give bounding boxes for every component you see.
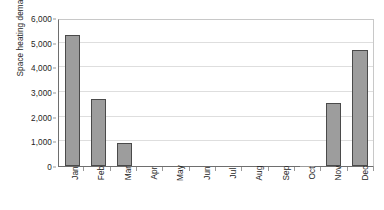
y-tick-label: 4,000 bbox=[31, 64, 52, 73]
x-tick-label-cell: Sep bbox=[269, 171, 295, 210]
bar-slot bbox=[347, 20, 373, 166]
x-tick-label-cell: Aug bbox=[242, 171, 268, 210]
bar-slot bbox=[216, 20, 242, 166]
plot-area bbox=[58, 19, 374, 167]
x-tick-label: Apr bbox=[150, 166, 159, 179]
x-tick-label: May bbox=[176, 165, 185, 181]
y-axis-tick-labels: 01,0002,0003,0004,0005,0006,000 bbox=[14, 0, 56, 210]
x-tick-label-cell: Nov bbox=[321, 171, 347, 210]
y-tick-mark bbox=[53, 93, 56, 94]
y-tick-label: 1,000 bbox=[31, 138, 52, 147]
bar-slot bbox=[138, 20, 164, 166]
x-tick-label-cell: Jan bbox=[58, 171, 84, 210]
bar-slot bbox=[85, 20, 111, 166]
bar-slot bbox=[268, 20, 294, 166]
y-tick-label: 2,000 bbox=[31, 113, 52, 122]
bar-mar[interactable] bbox=[117, 143, 132, 166]
y-tick-label: 5,000 bbox=[31, 39, 52, 48]
bar-slot bbox=[190, 20, 216, 166]
y-tick-label: 3,000 bbox=[31, 89, 52, 98]
y-tick-mark bbox=[53, 167, 56, 168]
bar-slot bbox=[295, 20, 321, 166]
x-tick-label-cell: Mar bbox=[111, 171, 137, 210]
bar-jan[interactable] bbox=[65, 35, 80, 166]
bar-series bbox=[59, 20, 373, 166]
bar-nov[interactable] bbox=[326, 103, 341, 166]
y-tick-mark bbox=[53, 19, 56, 20]
x-tick-label-cell: May bbox=[163, 171, 189, 210]
bar-slot bbox=[321, 20, 347, 166]
x-tick-label: Jun bbox=[203, 166, 212, 180]
x-axis-tick-labels: JanFebMarAprMayJunJulAugSepOctNovDec bbox=[58, 171, 374, 210]
x-tick-label: Aug bbox=[255, 166, 264, 181]
bar-slot bbox=[164, 20, 190, 166]
x-tick-label: Jan bbox=[71, 166, 80, 180]
x-tick-label: Feb bbox=[97, 166, 106, 180]
y-tick-mark bbox=[53, 142, 56, 143]
x-tick-label-cell: Jul bbox=[216, 171, 242, 210]
x-tick-label-cell: Oct bbox=[295, 171, 321, 210]
bar-slot bbox=[59, 20, 85, 166]
x-tick-label-cell: Jun bbox=[190, 171, 216, 210]
y-tick-mark bbox=[53, 43, 56, 44]
y-tick-mark bbox=[53, 68, 56, 69]
x-tick-label-cell: Dec bbox=[348, 171, 374, 210]
bar-slot bbox=[111, 20, 137, 166]
x-tick-label: Mar bbox=[124, 166, 133, 180]
bar-dec[interactable] bbox=[352, 50, 367, 166]
x-tick-label-cell: Apr bbox=[137, 171, 163, 210]
y-tick-mark bbox=[53, 117, 56, 118]
y-tick-label: 0 bbox=[47, 163, 52, 172]
bar-feb[interactable] bbox=[91, 99, 106, 166]
bar-slot bbox=[242, 20, 268, 166]
bar-chart-figure: Space heating demand (kWh) 01,0002,0003,… bbox=[0, 0, 384, 210]
x-tick-label: Jul bbox=[229, 168, 238, 179]
x-tick-label: Nov bbox=[334, 166, 343, 181]
x-tick-label: Oct bbox=[308, 166, 317, 179]
y-tick-label: 6,000 bbox=[31, 15, 52, 24]
x-tick-label: Sep bbox=[282, 166, 291, 181]
x-tick-label-cell: Feb bbox=[84, 171, 110, 210]
x-tick-label: Dec bbox=[361, 166, 370, 181]
